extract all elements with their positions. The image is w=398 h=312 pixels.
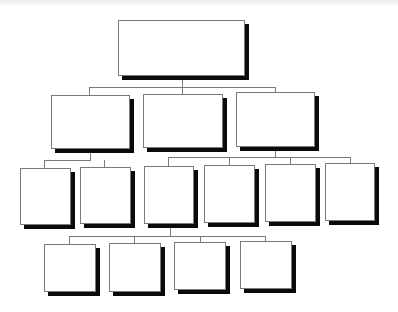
org-node-level-2: [265, 164, 316, 222]
connector-line: [69, 236, 266, 237]
connector-line: [182, 79, 183, 87]
connector-line: [44, 160, 45, 168]
org-node-level-1: [51, 95, 130, 149]
org-node-level-3: [44, 244, 96, 292]
org-node-level-2: [80, 167, 131, 224]
connector-line: [168, 157, 169, 166]
org-node-level-2: [325, 163, 375, 221]
org-node-level-2: [204, 165, 255, 223]
connector-line: [69, 236, 70, 244]
connector-line: [90, 152, 91, 160]
connector-line: [275, 150, 276, 157]
connector-line: [44, 160, 91, 161]
connector-line: [134, 236, 135, 243]
connector-line: [229, 157, 230, 165]
org-node-level-3: [174, 242, 226, 290]
org-node-level-0: [118, 20, 245, 76]
org-node-level-3: [109, 243, 161, 292]
org-node-level-1: [236, 92, 315, 147]
connector-line: [182, 87, 183, 94]
org-chart: [0, 0, 398, 312]
connector-line: [168, 157, 351, 158]
org-node-level-3: [240, 241, 292, 289]
connector-line: [89, 87, 90, 95]
org-node-level-1: [143, 94, 223, 148]
connector-line: [290, 157, 291, 164]
connector-line: [170, 227, 171, 236]
org-node-level-2: [144, 166, 194, 224]
connector-line: [104, 160, 105, 167]
org-node-level-2: [20, 168, 71, 225]
